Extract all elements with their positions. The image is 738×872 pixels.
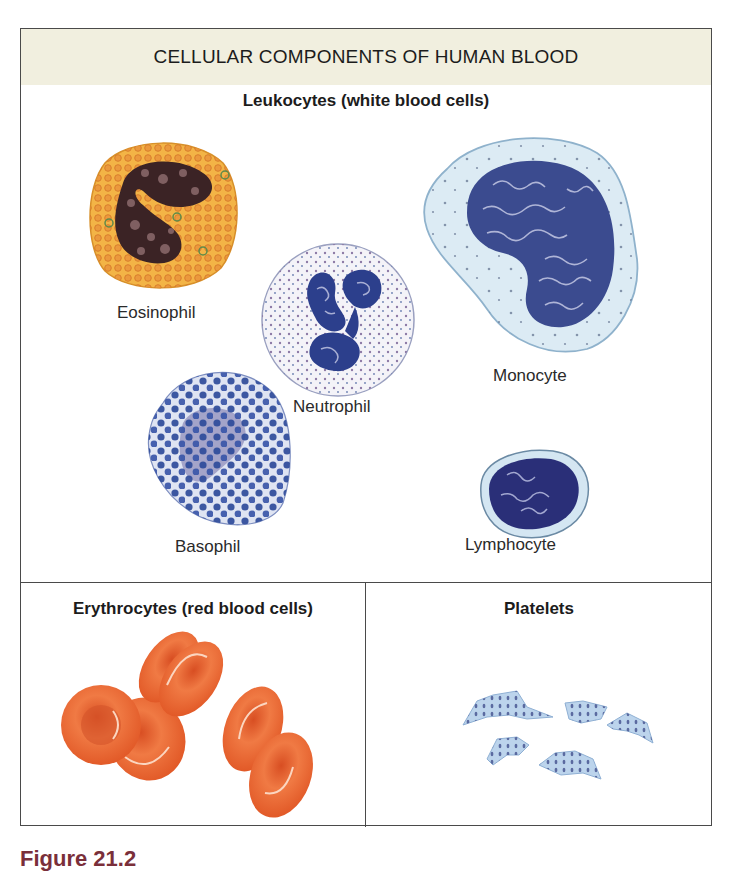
neutrophil-label: Neutrophil xyxy=(293,397,371,417)
erythrocytes-illustration xyxy=(35,627,345,817)
figure-box: CELLULAR COMPONENTS OF HUMAN BLOOD Leuko… xyxy=(20,28,712,826)
eosinophil-illustration xyxy=(83,133,243,293)
basophil-illustration xyxy=(143,363,293,529)
header-band: CELLULAR COMPONENTS OF HUMAN BLOOD xyxy=(21,29,711,85)
monocyte-illustration xyxy=(417,129,643,357)
platelets-illustration xyxy=(457,679,657,783)
platelets-title: Platelets xyxy=(365,599,713,619)
monocyte-label: Monocyte xyxy=(493,366,567,386)
figure-caption: Figure 21.2 xyxy=(20,846,136,872)
basophil-label: Basophil xyxy=(175,537,240,557)
figure-title: CELLULAR COMPONENTS OF HUMAN BLOOD xyxy=(154,46,579,68)
lymphocyte-label: Lymphocyte xyxy=(465,535,556,555)
lymphocyte-illustration xyxy=(471,445,591,541)
eosinophil-label: Eosinophil xyxy=(117,303,195,323)
leukocytes-title: Leukocytes (white blood cells) xyxy=(21,91,711,111)
section-divider-horizontal xyxy=(21,582,711,583)
erythrocytes-title: Erythrocytes (red blood cells) xyxy=(21,599,365,619)
